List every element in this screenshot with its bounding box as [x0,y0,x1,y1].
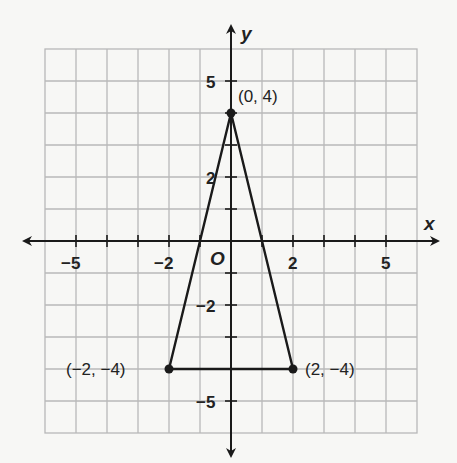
x-tick-label-2: 2 [288,254,297,273]
vertex-right [289,365,298,374]
y-tick-label-5: 5 [206,73,215,92]
point-label-left: (−2, −4) [66,360,126,379]
y-tick-label-neg5: −5 [196,393,215,412]
y-tick-label-neg2: −2 [196,297,215,316]
coordinate-plane: x y O −5 −2 2 5 5 2 −2 −5 (0, 4) (−2, −4… [0,0,457,463]
graph-svg: x y O −5 −2 2 5 5 2 −2 −5 (0, 4) (−2, −4… [0,0,457,463]
y-tick-label-2: 2 [206,169,215,188]
point-label-top: (0, 4) [238,87,278,106]
x-axis-label: x [423,213,436,234]
vertex-top [227,109,236,118]
origin-label: O [210,248,225,269]
x-tick-label-5: 5 [381,254,390,273]
vertex-left [165,365,174,374]
x-tick-label-neg5: −5 [61,254,80,273]
y-axis-label: y [240,23,253,44]
x-tick-label-neg2: −2 [154,254,173,273]
point-label-right: (2, −4) [305,360,355,379]
